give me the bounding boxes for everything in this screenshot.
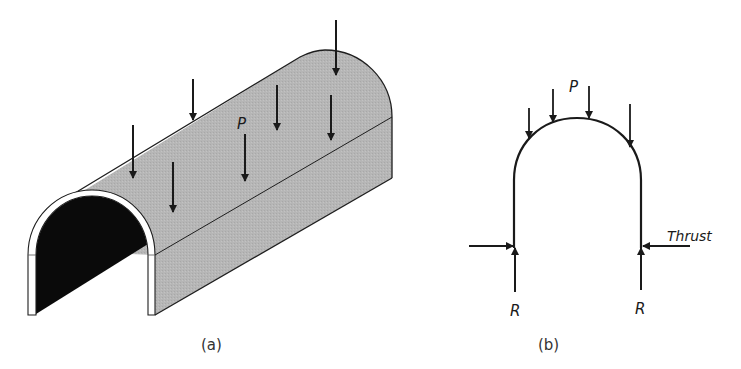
arch-load-label: P (569, 78, 579, 96)
arch-outline (514, 118, 641, 248)
panel-a-vault: P (a) (28, 20, 392, 354)
vault-load-label: P (237, 115, 247, 133)
reaction-right-label: R (635, 300, 645, 318)
figure-canvas: P (a) P Thrust R R (b) (0, 0, 741, 369)
arch-load-arrows (529, 86, 630, 147)
panel-a-caption: (a) (201, 336, 222, 354)
panel-b-section: P Thrust R R (b) (469, 78, 712, 354)
reaction-left-label: R (510, 302, 520, 320)
thrust-label: Thrust (667, 228, 712, 244)
vault-interior (36, 196, 148, 314)
panel-b-caption: (b) (538, 336, 559, 354)
